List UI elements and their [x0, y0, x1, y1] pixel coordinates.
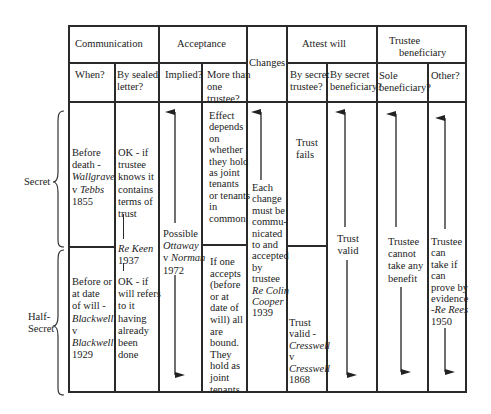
arrows — [0, 0, 491, 414]
